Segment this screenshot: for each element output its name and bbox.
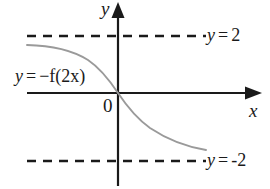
asymptote-label-top: y=2: [207, 26, 240, 44]
function-label-rhs: −f(2x): [39, 66, 85, 86]
asymptote-top-variable: y: [207, 25, 215, 45]
asymptote-label-bottom: y=-2: [207, 151, 246, 169]
y-axis-arrowhead-icon: [112, 2, 125, 18]
asymptote-bottom-value: -2: [231, 150, 246, 170]
asymptote-top-value: 2: [231, 25, 240, 45]
x-axis-arrowhead-icon: [245, 87, 262, 100]
asymptote-bottom-variable: y: [207, 150, 215, 170]
function-label-lhs: y: [15, 66, 23, 86]
origin-label: 0: [103, 96, 113, 115]
function-label: y=−f(2x): [15, 67, 85, 85]
function-curve: [27, 45, 206, 150]
function-label-expression: −f(2x): [39, 66, 85, 86]
y-axis-label: y: [101, 0, 109, 18]
function-label-equals: =: [26, 66, 36, 86]
asymptote-bottom-equals: =: [218, 150, 228, 170]
graph-figure: y x 0 y=2 y=-2 y=−f(2x): [0, 0, 270, 189]
asymptote-top-equals: =: [218, 25, 228, 45]
x-axis-label: x: [249, 101, 257, 120]
